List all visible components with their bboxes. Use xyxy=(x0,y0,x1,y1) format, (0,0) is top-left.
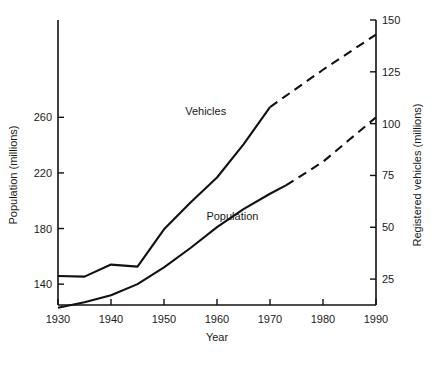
x-axis-tick-label: 1990 xyxy=(364,313,388,325)
y-axis-left-tick-label: 140 xyxy=(34,278,52,290)
x-axis-tick-label: 1950 xyxy=(152,313,176,325)
series-label-population: Population xyxy=(206,210,258,222)
x-axis-tick-label: 1970 xyxy=(258,313,282,325)
series-line-projected-population xyxy=(286,117,376,185)
series-inline-labels: PopulationVehicles xyxy=(185,105,258,222)
y-axis-right-title: Registered vehicles (millions) xyxy=(411,103,423,246)
series-line-population xyxy=(58,185,286,307)
x-axis-tick-label: 1930 xyxy=(46,313,70,325)
y-axis-left-tick-label: 260 xyxy=(34,111,52,123)
y-axis-left-tick-label: 220 xyxy=(34,167,52,179)
y-axis-right-tick-label: 25 xyxy=(382,273,394,285)
x-axis-ticks: 1930194019501960197019801990 xyxy=(46,299,388,325)
x-axis-tick-label: 1940 xyxy=(99,313,123,325)
x-axis-title: Year xyxy=(206,331,229,343)
y-axis-left-title: Population (millions) xyxy=(7,125,19,224)
y-axis-right-tick-label: 150 xyxy=(382,14,400,26)
x-axis-tick-label: 1980 xyxy=(311,313,335,325)
y-axis-left-ticks: 140180220260 xyxy=(34,111,64,290)
y-axis-right-ticks: 255075100125150 xyxy=(370,14,400,285)
population-vehicles-line-chart: 140180220260 255075100125150 19301940195… xyxy=(0,0,435,374)
series-paths xyxy=(58,35,376,308)
y-axis-right-tick-label: 75 xyxy=(382,169,394,181)
y-axis-right-tick-label: 100 xyxy=(382,118,400,130)
x-axis-tick-label: 1960 xyxy=(205,313,229,325)
series-label-vehicles: Vehicles xyxy=(185,105,226,117)
y-axis-left-tick-label: 180 xyxy=(34,223,52,235)
y-axis-right-tick-label: 125 xyxy=(382,66,400,78)
series-line-vehicles xyxy=(58,107,270,277)
y-axis-right-tick-label: 50 xyxy=(382,221,394,233)
figure-container: 140180220260 255075100125150 19301940195… xyxy=(0,0,435,374)
series-line-projected-vehicles xyxy=(270,35,376,108)
